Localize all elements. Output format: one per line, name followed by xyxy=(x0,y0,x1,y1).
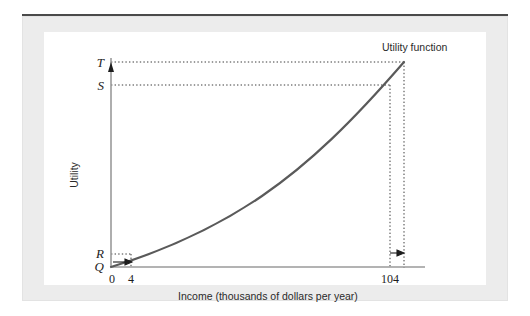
y-axis-title: Utility xyxy=(68,161,80,187)
x-tick-label-4: 4 xyxy=(128,272,134,286)
x-tick-label-104: 104 xyxy=(381,272,399,286)
y-tick-label-S: S xyxy=(98,78,105,93)
guide-lines xyxy=(111,62,404,268)
utility-function-chart: Utility function T S R Q 0 4 104 Income … xyxy=(0,0,530,316)
figure-root: Utility function T S R Q 0 4 104 Income … xyxy=(0,0,530,316)
axes xyxy=(111,58,425,267)
utility-curve xyxy=(111,62,404,267)
y-tick-label-T: T xyxy=(97,55,105,70)
utility-function-annotation: Utility function xyxy=(382,41,448,53)
high-income-delta-arrowhead xyxy=(397,250,404,256)
x-tick-label-0: 0 xyxy=(109,272,115,286)
y-axis-arrowhead xyxy=(108,62,114,72)
y-tick-label-Q: Q xyxy=(95,259,105,274)
x-axis-title: Income (thousands of dollars per year) xyxy=(178,290,358,302)
